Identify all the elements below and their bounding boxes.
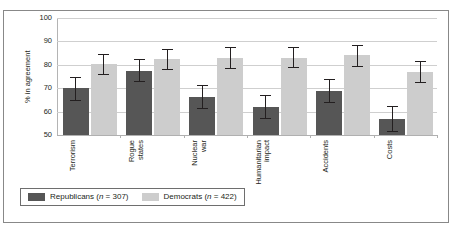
legend-entry[interactable]: Democrats (n = 422) <box>142 193 237 201</box>
x-tick <box>184 135 185 138</box>
chart-legend: Republicans (n = 307)Democrats (n = 422) <box>20 188 245 206</box>
x-tick <box>247 135 248 138</box>
error-bar-cap-lower <box>415 82 426 83</box>
bar-group <box>379 18 433 135</box>
legend-label: Democrats (n = 422) <box>164 193 237 201</box>
error-bar-line <box>265 95 266 118</box>
error-bar-cap-lower <box>352 66 363 67</box>
error-bar-cap-upper <box>352 45 363 46</box>
legend-entry[interactable]: Republicans (n = 307) <box>28 193 129 201</box>
error-bar-line <box>293 47 294 68</box>
error-bar-cap-upper <box>415 61 426 62</box>
bar-group <box>189 18 243 135</box>
error-bar-cap-lower <box>387 131 398 132</box>
category-label-line: war <box>200 140 209 152</box>
error-bar-line <box>202 85 203 108</box>
error-bar-cap-lower <box>225 68 236 69</box>
error-bar-line <box>103 54 104 74</box>
error-bar-cap-upper <box>70 77 81 78</box>
error-bar-cap-upper <box>197 85 208 86</box>
error-bar-cap-upper <box>387 106 398 107</box>
bar <box>344 55 370 135</box>
error-bar-cap-upper <box>225 47 236 48</box>
category-label-line: Costs <box>386 140 395 159</box>
y-tick-label: 70 <box>44 84 52 92</box>
error-bar-line <box>392 106 393 131</box>
category-label: Humanitarianimpact <box>254 140 272 185</box>
category-label: Roguestates <box>128 140 146 162</box>
error-bar-line <box>167 49 168 68</box>
error-bar-line <box>230 47 231 68</box>
error-bar-cap-upper <box>324 79 335 80</box>
error-bar-cap-lower <box>70 100 81 101</box>
category-label-line: impact <box>263 140 272 162</box>
bar <box>316 91 342 135</box>
legend-label: Republicans (n = 307) <box>50 193 129 201</box>
y-axis-label-text: % in agreement <box>23 51 31 104</box>
error-bar-cap-lower <box>324 102 335 103</box>
bar <box>407 72 433 135</box>
y-tick-label: 50 <box>44 131 52 139</box>
bar <box>189 97 215 135</box>
x-tick <box>374 135 375 138</box>
bar-group <box>63 18 117 135</box>
bar <box>63 88 89 135</box>
x-tick <box>310 135 311 138</box>
error-bar-cap-lower <box>197 108 208 109</box>
error-bar-cap-lower <box>134 81 145 82</box>
bar <box>379 119 405 135</box>
bar <box>91 64 117 135</box>
clipped-title <box>0 0 452 3</box>
error-bar-cap-upper <box>162 49 173 50</box>
y-tick-label: 100 <box>39 14 52 22</box>
error-bar-cap-lower <box>98 74 109 75</box>
category-label-line: Accidents <box>322 140 331 173</box>
plot-area: 5060708090100 TerrorismRoguestatesNuclea… <box>57 18 437 135</box>
bar-group <box>316 18 370 135</box>
error-bar-line <box>75 77 76 99</box>
bar <box>154 59 180 135</box>
category-label: Accidents <box>322 140 331 173</box>
y-axis-label: % in agreement <box>21 18 33 136</box>
y-tick-label: 80 <box>44 61 52 69</box>
error-bar-cap-upper <box>260 95 271 96</box>
bar <box>126 71 152 135</box>
bar-group <box>253 18 307 135</box>
bar-group <box>126 18 180 135</box>
error-bar-cap-lower <box>162 69 173 70</box>
x-tick <box>437 135 438 138</box>
error-bar-cap-upper <box>98 54 109 55</box>
error-bar-line <box>357 45 358 66</box>
bar <box>217 58 243 135</box>
category-label: Costs <box>385 140 394 159</box>
category-label-line: states <box>137 140 146 160</box>
category-label-line: Terrorism <box>69 140 78 171</box>
chart-figure: % in agreement 5060708090100 TerrorismRo… <box>0 0 452 228</box>
category-label: Terrorism <box>69 140 78 171</box>
error-bar-line <box>329 79 330 103</box>
category-label: Nuclearwar <box>191 140 209 166</box>
legend-swatch <box>28 193 45 201</box>
y-tick-label: 60 <box>44 108 52 116</box>
error-bar-line <box>139 59 140 81</box>
bar <box>281 58 307 135</box>
error-bar-cap-lower <box>260 118 271 119</box>
legend-swatch <box>142 193 159 201</box>
bar <box>253 107 279 135</box>
error-bar-cap-lower <box>288 67 299 68</box>
error-bar-cap-upper <box>134 59 145 60</box>
y-tick-label: 90 <box>44 38 52 46</box>
x-tick <box>120 135 121 138</box>
error-bar-line <box>420 61 421 82</box>
error-bar-cap-upper <box>288 47 299 48</box>
